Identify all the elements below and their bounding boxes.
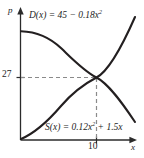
- demand-curve: [21, 31, 135, 122]
- demand-function-annotation: D(x) = 45 − 0.18x2: [29, 10, 102, 21]
- p-axis-arrow-icon: [17, 7, 23, 15]
- demand-function-text: D(x) = 45 − 0.18x: [29, 10, 99, 20]
- figure-canvas: [0, 0, 144, 158]
- supply-function-annotation: S(x) = 0.12x2 + 1.5x: [45, 122, 123, 133]
- y-tick-label-27: 27: [2, 70, 12, 80]
- supply-function-text-after: + 1.5x: [95, 122, 122, 132]
- demand-function-exponent: 2: [99, 9, 102, 15]
- x-axis-label: x: [131, 143, 135, 152]
- supply-demand-figure: p x 27 10 D(x) = 45 − 0.18x2 S(x) = 0.12…: [0, 0, 144, 158]
- supply-function-text-before: S(x) = 0.12x: [45, 122, 92, 132]
- x-tick-label-10: 10: [88, 142, 98, 152]
- p-axis-label: p: [8, 6, 13, 15]
